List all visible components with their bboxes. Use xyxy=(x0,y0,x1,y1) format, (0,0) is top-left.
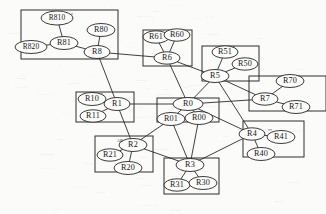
node-label-R31: R31 xyxy=(170,180,184,189)
node-R7[interactable]: R7 xyxy=(252,93,278,105)
node-label-R40: R40 xyxy=(254,149,268,158)
node-label-R60: R60 xyxy=(170,30,184,39)
node-label-R10: R10 xyxy=(85,94,99,103)
node-label-R81: R81 xyxy=(57,38,71,47)
node-R00[interactable]: R00 xyxy=(185,112,213,125)
node-label-R61: R61 xyxy=(149,32,163,41)
edge-R71-R7 xyxy=(276,102,283,104)
node-R30[interactable]: R30 xyxy=(189,177,217,190)
edge-R00-R3 xyxy=(191,124,198,158)
node-R11[interactable]: R11 xyxy=(80,110,106,122)
node-R70[interactable]: R70 xyxy=(276,75,304,88)
node-label-R71: R71 xyxy=(289,102,303,111)
mark-r2: AR xyxy=(117,138,123,143)
node-R81[interactable]: R81 xyxy=(50,37,78,50)
edge-R8-R6 xyxy=(110,53,154,57)
edge-R6-R5 xyxy=(177,62,204,72)
edge-R70-R7 xyxy=(272,86,282,93)
node-label-R4: R4 xyxy=(247,129,257,138)
node-label-R51: R51 xyxy=(218,47,232,56)
node-R6[interactable]: R6 xyxy=(154,52,180,64)
node-R20[interactable]: R20 xyxy=(114,162,142,175)
node-label-R41: R41 xyxy=(274,132,288,141)
edge-R820-R81 xyxy=(46,45,50,46)
edge-R2-R20 xyxy=(129,151,131,161)
node-R8[interactable]: R8 xyxy=(84,46,110,59)
node-R31[interactable]: R31 xyxy=(164,179,190,191)
node-label-R80: R80 xyxy=(94,25,108,34)
edge-R11-R1 xyxy=(102,109,108,112)
node-label-R3: R3 xyxy=(185,160,195,169)
node-label-R820: R820 xyxy=(23,42,40,51)
node-R40[interactable]: R40 xyxy=(247,148,275,161)
edge-R0-R01 xyxy=(178,110,182,113)
diagram-canvas: R810R80R81R820R8R61R60R6R51R50R5R70R7R71… xyxy=(0,0,326,214)
edge-R4-R40 xyxy=(255,140,258,148)
edge-R50-R5 xyxy=(226,68,235,72)
node-R21[interactable]: R21 xyxy=(97,149,123,161)
edge-R80-R8 xyxy=(98,36,100,45)
node-label-R7: R7 xyxy=(260,94,270,103)
node-label-R8: R8 xyxy=(92,47,102,56)
node-R50[interactable]: R50 xyxy=(232,58,258,70)
node-R1[interactable]: R1 xyxy=(104,98,130,111)
edge-R6-R0 xyxy=(170,64,185,98)
mark-r41: ** xyxy=(268,128,272,133)
edge-R3-R30 xyxy=(194,171,198,177)
edge-R4-R3 xyxy=(200,138,244,160)
node-label-R00: R00 xyxy=(192,113,206,122)
node-R4[interactable]: R4 xyxy=(239,128,265,140)
node-label-R50: R50 xyxy=(238,59,252,68)
node-label-R1: R1 xyxy=(112,99,122,108)
node-R5[interactable]: R5 xyxy=(201,70,229,83)
mark-r51: * xyxy=(233,45,235,50)
node-label-R6: R6 xyxy=(162,53,172,62)
node-R01[interactable]: R01 xyxy=(157,113,185,126)
node-label-R810: R810 xyxy=(49,13,66,22)
node-R0[interactable]: R0 xyxy=(173,98,203,111)
mark-r3: * xyxy=(198,158,200,163)
edge-R5-R7 xyxy=(225,81,256,95)
node-R60[interactable]: R60 xyxy=(164,29,190,41)
node-label-R0: R0 xyxy=(183,99,193,108)
edge-R61-R6 xyxy=(159,43,164,52)
node-label-R11: R11 xyxy=(86,111,100,120)
edge-R01-R2 xyxy=(141,124,163,139)
node-label-R5: R5 xyxy=(210,71,220,80)
edge-R3-R31 xyxy=(181,171,186,179)
node-label-R20: R20 xyxy=(121,163,135,172)
node-R2[interactable]: R2 xyxy=(119,139,147,152)
edge-R51-R5 xyxy=(218,58,223,70)
router-network-graph: R810R80R81R820R8R61R60R6R51R50R5R70R7R71… xyxy=(0,0,326,214)
node-label-R2: R2 xyxy=(128,140,138,149)
edge-R810-R81 xyxy=(59,25,62,37)
nodes-layer: R810R80R81R820R8R61R60R6R51R50R5R70R7R71… xyxy=(15,11,310,191)
edge-R2-R3 xyxy=(144,149,179,161)
node-R71[interactable]: R71 xyxy=(282,101,310,114)
node-R820[interactable]: R820 xyxy=(15,41,47,54)
edge-R1-R2 xyxy=(119,110,130,138)
edge-R60-R6 xyxy=(170,41,175,52)
edge-R81-R8 xyxy=(76,46,86,49)
node-label-R21: R21 xyxy=(103,150,117,159)
node-R80[interactable]: R80 xyxy=(87,24,115,37)
node-label-R30: R30 xyxy=(196,178,210,187)
mark-r10: * xyxy=(101,92,103,97)
node-label-R70: R70 xyxy=(283,76,297,85)
edge-R5-R0 xyxy=(194,82,210,98)
node-label-R01: R01 xyxy=(164,114,178,123)
mark-r810: * xyxy=(71,12,73,17)
edge-R01-R3 xyxy=(174,125,188,158)
node-R810[interactable]: R810 xyxy=(41,11,73,25)
edge-R7-R0 xyxy=(203,100,252,103)
